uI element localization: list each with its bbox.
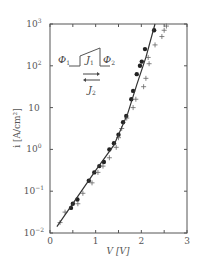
arrow-right-icon [83, 72, 100, 76]
data-point-plus [107, 155, 112, 160]
data-series [57, 24, 169, 227]
y-tick-label: 10 [28, 103, 40, 113]
y-tick-label: 103 [26, 17, 41, 29]
plot-frame [50, 24, 187, 233]
y-tick-label: 100 [26, 142, 41, 154]
data-point-plus [153, 42, 158, 47]
data-point-plus [141, 84, 146, 89]
data-point-dot [140, 59, 144, 63]
y-tick-label: 10−2 [24, 226, 44, 238]
data-point-plus [75, 201, 80, 206]
phi2-label: Φ2 [103, 54, 115, 66]
data-point-dot [138, 64, 142, 68]
y-tick-label: 10−1 [24, 184, 44, 196]
y-axis: 10−210−110010102103 [24, 17, 187, 238]
arrow-left-icon [83, 78, 100, 82]
data-point-plus [133, 97, 138, 102]
x-tick-label: 3 [184, 236, 190, 246]
data-point-plus [162, 28, 167, 33]
data-point-plus [95, 170, 100, 175]
j1-label: J1 [84, 54, 94, 66]
data-point-dot [143, 47, 147, 51]
x-axis-title: V [V] [107, 246, 130, 256]
data-point-plus [147, 61, 152, 66]
data-point-dot [135, 72, 139, 76]
iv-chart: 0123 10−210−110010102103 Φ1 J1 Φ2 J2 V [… [0, 0, 199, 280]
barrier-inset: Φ1 J1 Φ2 J2 [58, 48, 115, 96]
x-tick-label: 1 [93, 236, 99, 246]
data-point-plus [159, 34, 164, 39]
phi1-label: Φ1 [58, 54, 70, 66]
data-point-plus [131, 105, 136, 110]
data-point-plus [114, 145, 119, 150]
j2-label: J2 [86, 84, 96, 96]
y-axis-title: i [A/cm²] [12, 108, 22, 147]
y-tick-label: 102 [26, 59, 41, 71]
data-point-plus [100, 164, 105, 169]
x-tick-label: 0 [47, 236, 53, 246]
x-tick-label: 2 [138, 236, 144, 246]
data-point-plus [143, 76, 148, 81]
